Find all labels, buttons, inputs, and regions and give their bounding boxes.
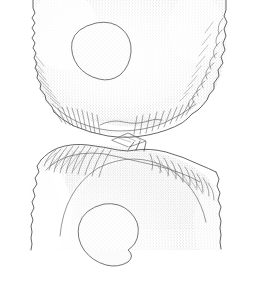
lithic-figure — [0, 0, 259, 283]
lithic-drawing-canvas — [0, 0, 259, 283]
